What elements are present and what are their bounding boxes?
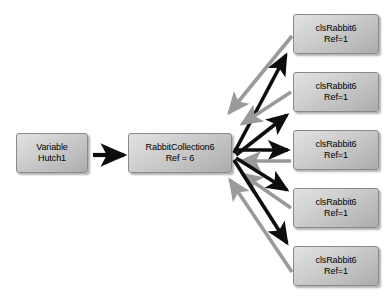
- node-item-2-line1: clsRabbit6: [315, 139, 356, 150]
- node-cls-rabbit-2[interactable]: clsRabbit6 Ref=1: [293, 130, 379, 170]
- node-item-2-line2: Ref=1: [324, 150, 348, 161]
- node-collection-line2: Ref = 6: [166, 153, 195, 164]
- node-item-0-line2: Ref=1: [324, 34, 348, 45]
- node-variable-line1: Variable: [36, 142, 68, 153]
- node-item-3-line2: Ref=1: [324, 208, 348, 219]
- node-cls-rabbit-0[interactable]: clsRabbit6 Ref=1: [293, 14, 379, 54]
- node-rabbit-collection[interactable]: RabbitCollection6 Ref = 6: [128, 133, 232, 173]
- node-item-0-line1: clsRabbit6: [315, 23, 356, 34]
- node-variable-hutch1[interactable]: Variable Hutch1: [16, 133, 88, 173]
- node-item-4-line1: clsRabbit6: [315, 255, 356, 266]
- node-cls-rabbit-3[interactable]: clsRabbit6 Ref=1: [293, 188, 379, 228]
- node-collection-line1: RabbitCollection6: [146, 142, 215, 153]
- node-cls-rabbit-1[interactable]: clsRabbit6 Ref=1: [293, 72, 379, 112]
- diagram-canvas: Variable Hutch1 RabbitCollection6 Ref = …: [0, 0, 384, 298]
- node-variable-line2: Hutch1: [38, 153, 66, 164]
- node-cls-rabbit-4[interactable]: clsRabbit6 Ref=1: [293, 246, 379, 286]
- edge-item-4-to-collection: [230, 180, 292, 272]
- node-item-4-line2: Ref=1: [324, 266, 348, 277]
- node-item-1-line2: Ref=1: [324, 92, 348, 103]
- node-item-1-line1: clsRabbit6: [315, 81, 356, 92]
- node-item-3-line1: clsRabbit6: [315, 197, 356, 208]
